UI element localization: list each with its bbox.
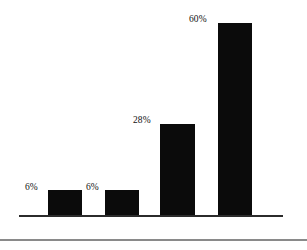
bar-1	[48, 190, 82, 215]
bar-chart-figure: 6% 6% 28% 60%	[0, 0, 307, 250]
bar-3	[160, 124, 195, 215]
bar-4-value-label: 60%	[189, 14, 207, 25]
footer-separator-rule	[0, 239, 307, 241]
bar-3-value-label: 28%	[133, 115, 151, 126]
horizontal-axis-line	[19, 215, 283, 217]
bar-2	[105, 190, 139, 215]
bar-2-value-label: 6%	[86, 182, 99, 193]
plot-area: 6% 6% 28% 60%	[0, 0, 307, 250]
bar-1-value-label: 6%	[25, 182, 38, 193]
bar-4	[218, 23, 252, 215]
